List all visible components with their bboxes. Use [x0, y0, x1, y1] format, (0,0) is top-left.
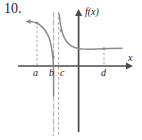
y-axis-label: f(x): [85, 7, 99, 17]
x-tick-label-a: a: [33, 68, 38, 78]
figure-container: 10. a b c d x f(x): [0, 0, 142, 140]
point-marker-c: [60, 29, 63, 32]
function-graph-svg: [0, 0, 142, 140]
x-tick-label-d: d: [101, 68, 106, 78]
x-axis-label: x: [128, 53, 132, 63]
point-marker-b: [52, 56, 55, 59]
problem-number: 10.: [4, 2, 22, 16]
left-branch-arrowhead: [26, 19, 30, 24]
x-tick-label-b: b: [49, 68, 54, 78]
x-tick-label-c: c: [60, 68, 64, 78]
curve-left-branch: [27, 21, 54, 96]
y-axis-arrowhead: [75, 9, 82, 16]
x-axis-arrowhead: [126, 63, 133, 70]
curve-right-branch: [59, 14, 122, 49]
point-marker-d: [103, 47, 106, 50]
point-marker-a: [36, 22, 39, 25]
